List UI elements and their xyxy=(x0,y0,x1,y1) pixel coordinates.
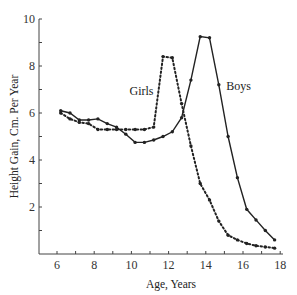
y-tick-label: 6 xyxy=(29,106,35,120)
boys-data-point xyxy=(208,36,211,39)
girls-data-point xyxy=(180,102,183,105)
girls-series-label: Girls xyxy=(130,84,154,98)
boys-data-point xyxy=(236,176,239,179)
x-tick-label: 14 xyxy=(200,258,212,272)
girls-data-point xyxy=(96,128,99,131)
girls-data-point xyxy=(217,219,220,222)
boys-data-point xyxy=(217,83,220,86)
girls-data-point xyxy=(133,128,136,131)
boys-line xyxy=(61,37,275,240)
girls-data-point xyxy=(161,55,164,58)
y-tick-label: 8 xyxy=(29,59,35,73)
y-tick-label: 2 xyxy=(29,200,35,214)
girls-data-point xyxy=(87,122,90,125)
boys-data-point xyxy=(133,141,136,144)
boys-data-point xyxy=(143,141,146,144)
boys-data-point xyxy=(226,135,229,138)
boys-data-point xyxy=(68,111,71,114)
x-tick-label: 18 xyxy=(274,258,286,272)
boys-series-label: Boys xyxy=(226,79,251,93)
girls-data-point xyxy=(226,234,229,237)
girls-data-point xyxy=(124,128,127,131)
girls-data-point xyxy=(264,245,267,248)
girls-data-point xyxy=(78,121,81,124)
girls-data-point xyxy=(152,125,155,128)
x-tick-label: 6 xyxy=(54,258,60,272)
boys-data-point xyxy=(189,78,192,81)
height-gain-chart: 246810681012141618Age, YearsHeight Gain,… xyxy=(0,0,297,295)
boys-data-point xyxy=(161,135,164,138)
boys-data-point xyxy=(245,208,248,211)
x-tick-label: 8 xyxy=(91,258,97,272)
boys-data-point xyxy=(180,116,183,119)
x-tick-label: 12 xyxy=(163,258,175,272)
x-tick-label: 16 xyxy=(237,258,249,272)
y-axis-title: Height Gain, Cm. Per Year xyxy=(8,75,21,199)
boys-data-point xyxy=(96,117,99,120)
girls-data-point xyxy=(68,117,71,120)
boys-data-point xyxy=(199,35,202,38)
girls-data-point xyxy=(208,198,211,201)
x-axis-title: Age, Years xyxy=(146,278,197,291)
girls-data-point xyxy=(189,144,192,147)
boys-data-point xyxy=(254,218,257,221)
girls-data-point xyxy=(245,242,248,245)
boys-data-point xyxy=(152,138,155,141)
girls-data-point xyxy=(115,128,118,131)
series-layer xyxy=(59,35,276,250)
boys-data-point xyxy=(273,238,276,241)
girls-data-point xyxy=(143,128,146,131)
girls-data-point xyxy=(171,56,174,59)
boys-data-point xyxy=(106,122,109,125)
boys-data-point xyxy=(87,118,90,121)
axes: 246810681012141618Age, YearsHeight Gain,… xyxy=(8,12,286,291)
girls-data-point xyxy=(59,111,62,114)
girls-data-point xyxy=(106,128,109,131)
boys-data-point xyxy=(264,229,267,232)
y-tick-label: 4 xyxy=(29,153,35,167)
girls-data-point xyxy=(254,244,257,247)
boys-data-point xyxy=(171,130,174,133)
girls-data-point xyxy=(273,246,276,249)
girls-data-point xyxy=(236,238,239,241)
x-tick-label: 10 xyxy=(125,258,137,272)
boys-data-point xyxy=(124,132,127,135)
y-tick-label: 10 xyxy=(23,12,35,26)
girls-data-point xyxy=(199,182,202,185)
